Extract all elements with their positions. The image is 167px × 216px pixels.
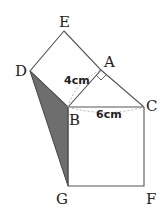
vertex-label-A: A: [103, 53, 115, 71]
geometry-figure: 4cm 6cm E A D C B G F: [0, 0, 167, 216]
right-angle-mark: [96, 75, 106, 80]
vertex-label-F: F: [146, 190, 156, 208]
label-AB-length: 4cm: [64, 74, 90, 87]
vertex-label-D: D: [15, 62, 27, 80]
label-BC-length: 6cm: [96, 108, 122, 121]
vertex-label-C: C: [146, 97, 157, 115]
vertex-label-E: E: [59, 13, 70, 31]
vertex-label-G: G: [56, 190, 68, 208]
vertex-label-B: B: [69, 111, 80, 129]
triangle-ABC-side-AC: [101, 70, 144, 107]
